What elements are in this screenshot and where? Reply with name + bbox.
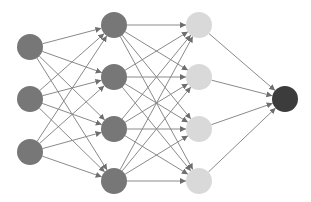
- hidden-1-node-3: [101, 168, 127, 194]
- input-node-2: [17, 139, 43, 165]
- input-node-0: [17, 34, 43, 60]
- edge-hidden-2-1-to-output-0: [212, 80, 273, 96]
- hidden-2-node-1: [186, 64, 212, 90]
- output-node-0: [272, 86, 298, 112]
- hidden-2-node-3: [186, 168, 212, 194]
- hidden-1-node-0: [101, 12, 127, 38]
- neural-network-diagram: [0, 0, 311, 202]
- edge-hidden-2-2-to-output-0: [211, 103, 272, 124]
- input-node-1: [17, 86, 43, 112]
- edge-input-2-to-hidden-1-3: [42, 156, 101, 177]
- hidden-1-node-2: [101, 116, 127, 142]
- hidden-1-node-1: [101, 64, 127, 90]
- edge-input-0-to-hidden-1-0: [43, 28, 102, 43]
- network-svg: [0, 0, 311, 202]
- hidden-2-node-2: [186, 116, 212, 142]
- edge-input-2-to-hidden-1-0: [37, 36, 107, 141]
- connection-edges: [37, 25, 276, 181]
- hidden-2-node-0: [186, 12, 212, 38]
- edge-hidden-2-3-to-output-0: [208, 108, 275, 172]
